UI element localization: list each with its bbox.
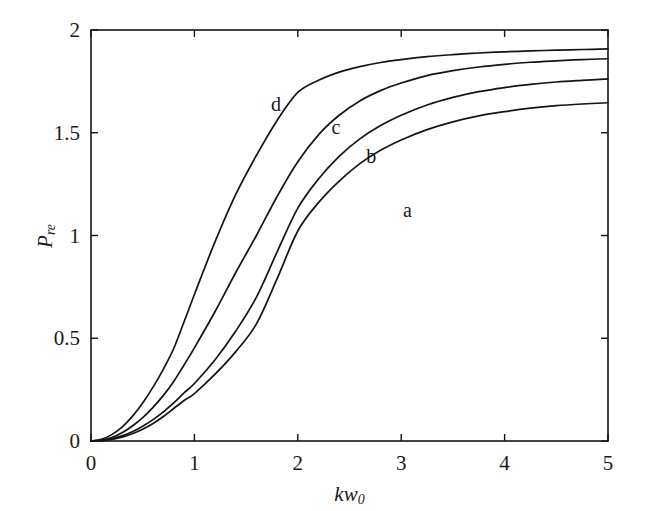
curve-label-b: b [366,146,376,166]
x-tick-label-5: 5 [603,453,614,474]
x-axis-title-subscript: 0 [358,492,365,507]
chart-figure: 00.511.52 012345 abcd Pre kw0 [0,0,646,511]
y-axis-title-base: P [33,235,57,248]
data-curves [91,49,608,441]
x-tick-label-0: 0 [86,453,97,474]
plot-svg [0,0,646,511]
y-tick-label-0: 0 [0,431,80,452]
curve-b [91,79,608,441]
curve-label-c: c [332,117,341,137]
y-axis-title-subscript: re [43,224,58,235]
x-tick-label-4: 4 [499,453,510,474]
axis-ticks [91,30,608,441]
x-tick-label-2: 2 [293,453,304,474]
curve-label-d: d [271,94,281,114]
y-tick-label-1.5: 1.5 [0,122,80,143]
curve-label-a: a [403,200,412,220]
x-tick-label-1: 1 [189,453,200,474]
x-axis-title-k: k [334,482,343,506]
y-tick-label-2: 2 [0,20,80,41]
x-axis-title: kw0 [334,484,364,507]
axis-frame [91,30,608,441]
x-axis-title-w: w [344,482,358,506]
curve-c [91,59,608,441]
y-axis-title: Pre [35,224,58,248]
y-tick-label-0.5: 0.5 [0,328,80,349]
x-tick-label-3: 3 [396,453,407,474]
curve-a [91,103,608,441]
